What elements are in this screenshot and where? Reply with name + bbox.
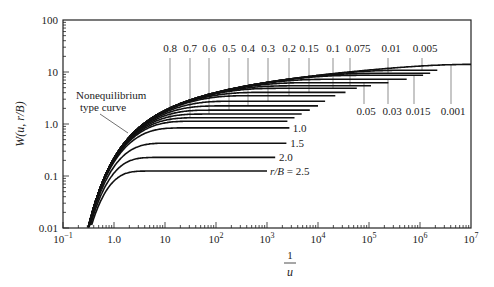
curve-rb-0.15 [89,92,346,226]
y-tick-label: 1.0 [44,118,58,130]
y-tick-label: 0.1 [44,170,58,182]
x-axis-ticks: 10−11.010102103104105106107 [53,222,478,245]
x-tick-label: 10−1 [53,231,73,245]
top-curve-label: 0.005 [413,42,438,54]
top-curve-label: 0.4 [241,42,255,54]
curve-rb-0.2 [89,96,336,227]
x-tick-label: 106 [413,231,428,245]
annotation-line-2: type curve [80,101,126,113]
bottom-curve-label: 0.001 [441,105,466,117]
y-axis-label: W(u, r/B) [13,101,27,146]
top-curve-label: 0.3 [261,42,275,54]
curve-rb-0.05 [89,83,389,227]
top-curve-label: 0.6 [202,42,216,54]
x-tick-label: 103 [260,231,275,245]
annotation-line-1: Nonequilibrium [76,89,147,101]
x-tick-label: 102 [209,231,224,245]
curve-label: 1.5 [290,137,304,149]
top-curve-label: 0.5 [222,42,236,54]
top-curve-label: 0.15 [299,42,319,54]
annotation-nonequilibrium: Nonequilibrium type curve [76,89,147,133]
curve-label: 1.0 [293,122,307,134]
well-function-chart: 100101.00.10.01 10−11.010102103104105106… [0,0,494,287]
x-axis-label-numerator: 1 [287,249,293,261]
top-curve-label: 0.2 [282,42,296,54]
curve-label: r/B = 2.5 [270,165,310,177]
bottom-curve-label: 0.05 [356,105,376,117]
x-tick-label: 105 [362,231,377,245]
top-curve-label: 0.8 [163,42,177,54]
y-tick-label: 100 [42,14,59,26]
x-tick-label: 104 [311,231,326,245]
x-tick-label: 107 [464,231,479,245]
curve-rb-0.7 [89,118,295,228]
top-curve-label: 0.01 [381,42,400,54]
x-tick-label: 1.0 [107,233,121,245]
y-tick-label: 10 [47,66,59,78]
annotation-pointer [100,114,128,133]
curve-rb-2 [91,157,276,225]
y-axis-ticks: 100101.00.10.01 [39,14,69,234]
curve-rb-0.075 [89,86,372,227]
x-axis-label-denominator: u [287,265,293,279]
curve-rb-0.8 [89,121,288,227]
x-tick-label: 10 [160,233,172,245]
bottom-curve-label: 0.03 [382,105,402,117]
curve-label: 2.0 [279,151,293,163]
top-curve-label: 0.7 [183,42,197,54]
top-curve-label: 0.075 [346,42,371,54]
y-axis-title: W(u, r/B) [13,101,27,146]
plot-area: 100101.00.10.01 10−11.010102103104105106… [39,14,479,245]
curve-rb-2.5 [92,171,267,225]
top-curve-label: 0.1 [326,42,340,54]
x-axis-title: 1 u [284,249,296,279]
bottom-curve-label: 0.015 [406,105,431,117]
